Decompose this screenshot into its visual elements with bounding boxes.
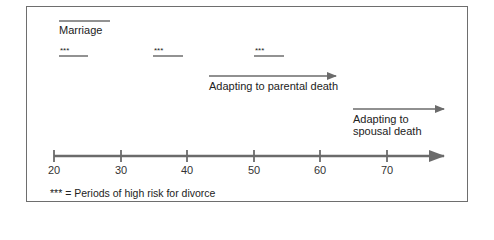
risk-marker-1: *** <box>60 47 69 55</box>
legend-text: *** = Periods of high risk for divorce <box>50 187 215 200</box>
tick-label-20: 20 <box>48 164 60 176</box>
risk-marker-3: *** <box>255 47 264 55</box>
risk-marker-2: *** <box>154 47 163 55</box>
tick-label-70: 70 <box>381 164 393 176</box>
marriage-label: Marriage <box>59 24 102 37</box>
parental-death-label: Adapting to parental death <box>209 80 338 93</box>
tick-label-40: 40 <box>181 164 193 176</box>
tick-label-60: 60 <box>314 164 326 176</box>
spousal-death-label-line2: spousal death <box>353 125 422 138</box>
tick-label-30: 30 <box>115 164 127 176</box>
tick-label-50: 50 <box>248 164 260 176</box>
